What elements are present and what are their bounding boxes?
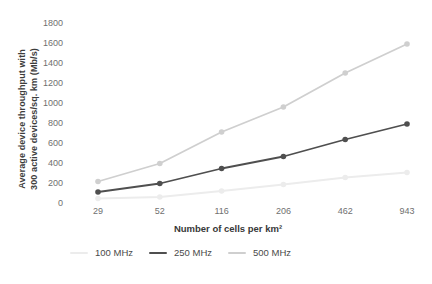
data-point-100-mhz	[95, 196, 101, 202]
data-point-100-mhz	[157, 194, 163, 200]
data-point-100-mhz	[342, 175, 348, 181]
line-chart-figure: Average device throughput with 300 activ…	[0, 0, 432, 284]
x-tick-label: 52	[155, 206, 165, 216]
legend-swatch	[70, 252, 88, 254]
y-tick-label: 400	[48, 158, 63, 168]
legend-item-500-mhz: 500 MHz	[228, 247, 291, 258]
y-tick-label: 600	[48, 138, 63, 148]
chart-legend: 100 MHz250 MHz500 MHz	[70, 247, 291, 258]
data-point-500-mhz	[404, 41, 410, 47]
x-tick-label: 29	[93, 206, 103, 216]
data-point-500-mhz	[95, 179, 101, 185]
data-point-250-mhz	[342, 137, 348, 143]
data-point-100-mhz	[281, 182, 287, 188]
data-point-250-mhz	[281, 154, 287, 160]
y-tick-label: 200	[48, 178, 63, 188]
y-tick-label: 1000	[43, 98, 63, 108]
legend-label: 100 MHz	[95, 247, 133, 258]
y-tick-label: 1800	[43, 18, 63, 28]
x-axis-title: Number of cells per km²	[128, 223, 328, 234]
data-point-500-mhz	[219, 129, 225, 135]
legend-swatch	[149, 252, 167, 254]
y-tick-label: 0	[58, 198, 63, 208]
y-tick-label: 1600	[43, 38, 63, 48]
x-tick-label: 116	[214, 206, 228, 216]
series-line-500-mhz	[98, 44, 407, 182]
data-point-250-mhz	[404, 121, 410, 127]
x-tick-label: 943	[399, 206, 414, 216]
data-point-500-mhz	[342, 70, 348, 76]
data-point-100-mhz	[219, 188, 225, 194]
y-tick-label: 1200	[43, 78, 63, 88]
data-point-250-mhz	[95, 189, 101, 195]
data-point-500-mhz	[157, 161, 163, 167]
x-tick-label: 206	[276, 206, 291, 216]
legend-item-250-mhz: 250 MHz	[149, 247, 212, 258]
data-point-250-mhz	[219, 166, 225, 172]
data-point-250-mhz	[157, 181, 163, 187]
legend-label: 500 MHz	[253, 247, 291, 258]
series-line-250-mhz	[98, 124, 407, 192]
data-point-100-mhz	[404, 170, 410, 176]
legend-item-100-mhz: 100 MHz	[70, 247, 133, 258]
y-tick-label: 1400	[43, 58, 63, 68]
legend-label: 250 MHz	[174, 247, 212, 258]
chart-plot-area: 0200400600800100012001400160018002952116…	[0, 0, 432, 284]
y-tick-label: 800	[48, 118, 63, 128]
legend-swatch	[228, 252, 246, 254]
x-tick-label: 462	[338, 206, 353, 216]
data-point-500-mhz	[281, 104, 287, 110]
